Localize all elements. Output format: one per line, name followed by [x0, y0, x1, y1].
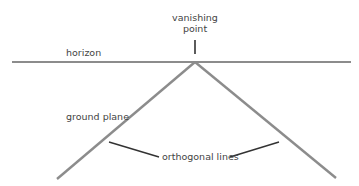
- orthogonal-pointer-left: [109, 142, 159, 157]
- vanishing-point-label: vanishing point: [170, 12, 220, 34]
- vanishing-point-label-line1: vanishing: [170, 12, 220, 23]
- orthogonal-lines-label: orthogonal lines: [162, 151, 239, 162]
- horizon-label: horizon: [66, 47, 101, 58]
- ground-plane-label: ground plane: [66, 111, 129, 122]
- vanishing-point-label-line2: point: [170, 23, 220, 34]
